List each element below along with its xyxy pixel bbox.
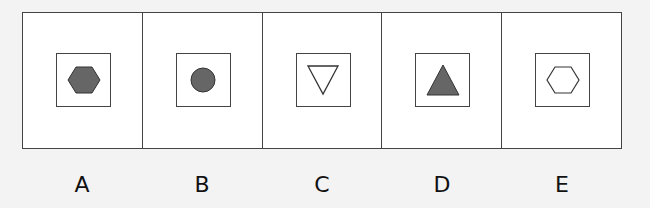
option-cell-b[interactable] — [143, 13, 263, 148]
option-label-a: A — [22, 172, 142, 197]
option-cell-c[interactable] — [263, 13, 383, 148]
option-label-b: B — [142, 172, 262, 197]
filled-hexagon-icon — [67, 66, 101, 94]
inner-box — [296, 53, 351, 107]
inner-box — [56, 53, 111, 107]
filled-circle-icon — [189, 66, 217, 94]
option-cell-e[interactable] — [502, 13, 621, 148]
inner-box — [176, 53, 231, 107]
option-label-c: C — [262, 172, 382, 197]
option-cell-d[interactable] — [382, 13, 502, 148]
option-label-e: E — [502, 172, 622, 197]
outline-down-triangle-icon — [306, 64, 340, 96]
options-strip — [22, 12, 622, 149]
option-label-d: D — [382, 172, 502, 197]
inner-box — [415, 53, 470, 107]
outline-hexagon-icon — [546, 66, 580, 94]
filled-up-triangle-icon — [426, 63, 460, 97]
option-cell-a[interactable] — [23, 13, 143, 148]
inner-box — [535, 53, 590, 107]
